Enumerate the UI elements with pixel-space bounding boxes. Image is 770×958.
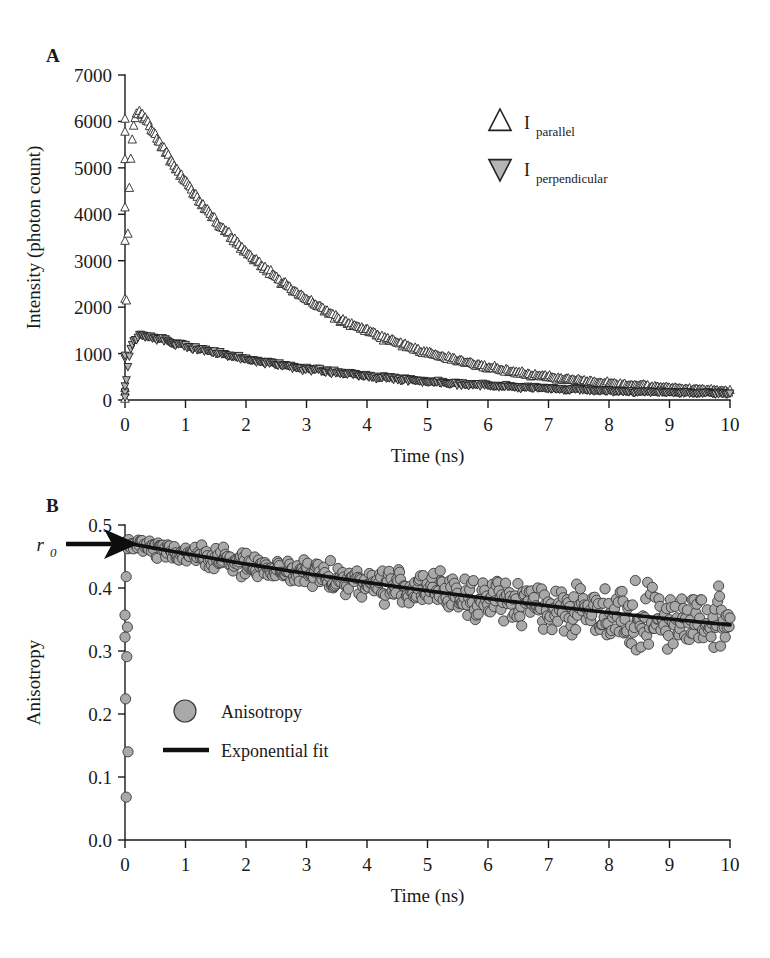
scatter-point <box>501 578 511 588</box>
scatter-point <box>627 600 637 610</box>
panel-a-x-tick-label: 7 <box>544 414 554 435</box>
panel-b-x-tick-label: 5 <box>423 854 433 875</box>
panel-b-legend: AnisotropyExponential fit <box>163 700 328 761</box>
panel-b-legend-label-anisotropy: Anisotropy <box>221 702 302 722</box>
panel-b-content: B0.00.10.20.30.40.5012345678910Time (ns)… <box>23 495 740 907</box>
r0-label-subscript: 0 <box>50 545 57 560</box>
scatter-point <box>725 613 735 623</box>
panel-a-x-tick-label: 0 <box>120 414 130 435</box>
scatter-point <box>677 594 687 604</box>
marker-triangle-up <box>121 127 129 135</box>
panel-a-series-I_parallel <box>121 106 734 402</box>
panel-a-legend-label-perpendicular: I <box>524 160 530 180</box>
scatter-point <box>120 632 130 642</box>
panel-b-y-tick-label: 0.3 <box>88 641 112 662</box>
panel-a-x-tick-label: 3 <box>302 414 312 435</box>
panel-b-y-tick-label: 0.1 <box>88 767 112 788</box>
marker-triangle-up <box>127 154 135 162</box>
panel-a-legend-label-parallel: I <box>524 113 530 133</box>
panel-b-x-tick-label: 4 <box>362 854 372 875</box>
panel-a-x-tick-label: 2 <box>241 414 251 435</box>
marker-triangle-up <box>125 183 133 191</box>
scatter-point <box>468 576 478 586</box>
panel-a-x-tick-label: 10 <box>721 414 740 435</box>
scatter-point <box>668 639 678 649</box>
panel-a-y-tick-label: 7000 <box>74 65 112 86</box>
marker-triangle-down <box>489 160 511 181</box>
panel-a-y-tick-label: 3000 <box>74 251 112 272</box>
panel-b-x-tick-label: 9 <box>665 854 675 875</box>
panel-b-x-tick-label: 8 <box>604 854 614 875</box>
panel-a-y-tick-label: 5000 <box>74 158 112 179</box>
panel-a-letter: A <box>46 45 60 66</box>
panel-b-x-tick-label: 6 <box>483 854 493 875</box>
panel-b-x-axis-title: Time (ns) <box>391 885 465 907</box>
panel-a-y-tick-label: 6000 <box>74 111 112 132</box>
panel-a-series-I_perpendicular <box>121 331 734 401</box>
marker-triangle-up <box>128 135 136 143</box>
scatter-point <box>600 584 610 594</box>
scatter-point <box>121 572 131 582</box>
panel-b-x-tick-label: 7 <box>544 854 554 875</box>
panel-a-legend: IparallelIperpendicular <box>489 109 608 186</box>
scatter-point <box>325 555 335 565</box>
panel-a-y-tick-label: 4000 <box>74 204 112 225</box>
scatter-point <box>575 583 585 593</box>
panel-b-legend-label-fit: Exponential fit <box>221 741 328 761</box>
scatter-point <box>706 632 716 642</box>
scatter-point <box>121 792 131 802</box>
panel-a-y-tick-label: 0 <box>103 390 113 411</box>
marker-triangle-up <box>489 109 511 130</box>
panel-b-anisotropy-chart: B0.00.10.20.30.40.5012345678910Time (ns)… <box>0 470 770 958</box>
panel-a-y-tick-label: 1000 <box>74 344 112 365</box>
panel-b-y-tick-label: 0.4 <box>88 578 112 599</box>
panel-a-x-tick-label: 8 <box>604 414 614 435</box>
scatter-point <box>121 694 131 704</box>
panel-b-x-tick-label: 10 <box>721 854 740 875</box>
figure-root: A010002000300040005000600070000123456789… <box>0 0 770 958</box>
scatter-point <box>122 652 132 662</box>
scatter-point <box>696 595 706 605</box>
scatter-point <box>123 747 133 757</box>
panel-a-x-tick-label: 6 <box>483 414 493 435</box>
scatter-point <box>720 632 730 642</box>
panel-b-letter: B <box>46 495 59 516</box>
panel-a-x-tick-label: 5 <box>423 414 433 435</box>
scatter-point <box>714 591 724 601</box>
panel-a-y-tick-label: 2000 <box>74 297 112 318</box>
scatter-point <box>714 581 724 591</box>
panel-b-y-tick-label: 0.2 <box>88 704 112 725</box>
panel-a-content: A010002000300040005000600070000123456789… <box>23 45 740 467</box>
panel-b-y-tick-label: 0.0 <box>88 830 112 851</box>
r0-label: r <box>37 534 45 555</box>
panel-a-legend-sublabel-parallel: parallel <box>536 124 575 139</box>
panel-a-x-tick-label: 4 <box>362 414 372 435</box>
panel-b-x-tick-label: 3 <box>302 854 312 875</box>
scatter-point <box>517 621 527 631</box>
scatter-point <box>647 582 657 592</box>
panel-b-x-tick-label: 1 <box>181 854 191 875</box>
scatter-point <box>473 609 483 619</box>
panel-a-x-tick-label: 1 <box>181 414 191 435</box>
scatter-point <box>515 611 525 621</box>
panel-a-legend-sublabel-perpendicular: perpendicular <box>536 171 608 186</box>
scatter-point <box>571 624 581 634</box>
scatter-point <box>120 610 130 620</box>
marker-triangle-up <box>129 121 137 129</box>
marker-triangle-up <box>121 203 129 211</box>
scatter-point <box>643 639 653 649</box>
panel-a-intensity-decay-chart: A010002000300040005000600070000123456789… <box>0 0 770 470</box>
scatter-point <box>122 622 132 632</box>
panel-b-legend-marker-anisotropy <box>174 700 196 722</box>
panel-a-x-axis-title: Time (ns) <box>391 445 465 467</box>
scatter-point <box>617 586 627 596</box>
panel-b-x-tick-label: 2 <box>241 854 251 875</box>
marker-triangle-up <box>121 114 129 122</box>
panel-b-y-axis-title: Anisotropy <box>23 639 44 725</box>
panel-a-x-tick-label: 9 <box>665 414 675 435</box>
panel-a-y-axis-title: Intensity (photon count) <box>23 146 45 330</box>
scatter-point <box>630 575 640 585</box>
scatter-point <box>435 566 445 576</box>
panel-b-x-tick-label: 0 <box>120 854 130 875</box>
panel-b-scatter-points <box>120 534 735 802</box>
